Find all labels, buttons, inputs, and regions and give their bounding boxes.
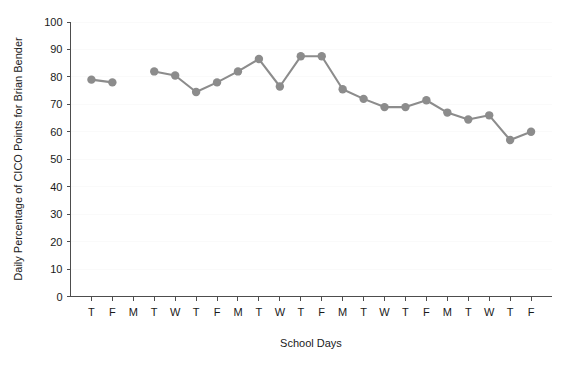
x-tick-label: M — [338, 306, 347, 318]
line-chart-canvas: 0102030405060708090100 TFMTWTFMTWTFMTWTF… — [0, 0, 572, 369]
x-tick-label: T — [88, 306, 95, 318]
x-tick-label: M — [443, 306, 452, 318]
y-tick-label: 40 — [50, 181, 62, 193]
y-tick-label: 80 — [50, 71, 62, 83]
data-point-marker — [297, 52, 305, 60]
x-tick-label: T — [465, 306, 472, 318]
data-point-marker — [485, 111, 493, 119]
data-point-marker — [234, 67, 242, 75]
data-point-marker — [338, 85, 346, 93]
data-point-marker — [213, 78, 221, 86]
x-tick-label: T — [507, 306, 514, 318]
data-point-marker — [464, 115, 472, 123]
data-point-marker — [443, 108, 451, 116]
x-tick-label: W — [484, 306, 495, 318]
x-tick-label: F — [528, 306, 535, 318]
data-point-marker — [527, 128, 535, 136]
x-tick-label: T — [402, 306, 409, 318]
y-axis-title: Daily Percentage of CICO Points for Bria… — [12, 37, 24, 281]
data-point-marker — [192, 88, 200, 96]
data-point-marker — [422, 96, 430, 104]
data-point-marker — [359, 95, 367, 103]
y-tick-label: 20 — [50, 236, 62, 248]
x-tick-label: W — [379, 306, 390, 318]
y-tick-label: 100 — [44, 16, 62, 28]
data-point-marker — [150, 67, 158, 75]
x-tick-label: F — [423, 306, 430, 318]
x-tick-label: T — [193, 306, 200, 318]
x-tick-label: M — [129, 306, 138, 318]
x-tick-label: T — [360, 306, 367, 318]
data-point-marker — [171, 71, 179, 79]
y-tick-label: 70 — [50, 98, 62, 110]
data-point-marker — [108, 78, 116, 86]
data-point-marker — [506, 136, 514, 144]
x-tick-label: M — [233, 306, 242, 318]
x-tick-label: T — [256, 306, 263, 318]
data-point-marker — [255, 55, 263, 63]
x-axis-title: School Days — [280, 337, 342, 349]
x-tick-label: W — [275, 306, 286, 318]
y-tick-label: 30 — [50, 208, 62, 220]
y-tick-label: 0 — [56, 291, 62, 303]
data-point-marker — [401, 103, 409, 111]
x-tick-label: T — [297, 306, 304, 318]
data-point-marker — [318, 52, 326, 60]
data-point-marker — [380, 103, 388, 111]
x-tick-label: F — [109, 306, 116, 318]
x-tick-label: W — [170, 306, 181, 318]
x-tick-label: F — [214, 306, 221, 318]
x-tick-label: T — [151, 306, 158, 318]
data-point-marker — [276, 82, 284, 90]
x-tick-label: F — [318, 306, 325, 318]
y-tick-label: 50 — [50, 153, 62, 165]
y-tick-label: 10 — [50, 263, 62, 275]
data-point-marker — [87, 75, 95, 83]
y-tick-label: 90 — [50, 43, 62, 55]
chart-figure: 0102030405060708090100 TFMTWTFMTWTFMTWTF… — [0, 0, 572, 369]
y-tick-label: 60 — [50, 126, 62, 138]
